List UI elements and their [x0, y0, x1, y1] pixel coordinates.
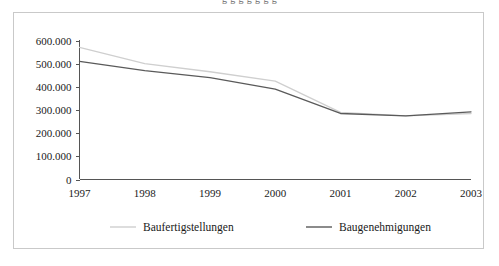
line-chart: 0100.000200.000300.000400.000500.000600.… [14, 13, 485, 250]
x-tick-label: 2000 [264, 187, 287, 199]
x-tick-label: 2001 [330, 187, 352, 199]
series-line [80, 61, 472, 115]
x-tick-label: 2002 [395, 187, 417, 199]
x-tick-label: 2003 [460, 187, 483, 199]
x-tick-label: 1998 [134, 187, 157, 199]
y-axis-tick-marks [76, 41, 80, 180]
x-axis-tick-labels: 1997199819992000200120022003 [69, 187, 483, 199]
x-tick-label: 1997 [69, 187, 92, 199]
y-axis-tick-labels: 0100.000200.000300.000400.000500.000600.… [36, 35, 72, 186]
y-tick-label: 0 [66, 174, 72, 186]
y-tick-label: 200.000 [36, 127, 72, 139]
y-tick-label: 500.000 [36, 58, 72, 70]
chart-legend: BaufertigstellungenBaugenehmigungen [110, 221, 431, 234]
y-tick-label: 400.000 [36, 81, 72, 93]
plot-area: 0100.000200.000300.000400.000500.000600.… [14, 13, 485, 250]
data-series-group [80, 47, 472, 115]
x-tick-label: 1999 [199, 187, 222, 199]
y-tick-label: 300.000 [36, 104, 72, 116]
series-line [80, 47, 472, 115]
y-tick-label: 600.000 [36, 35, 72, 47]
legend-label: Baugenehmigungen [339, 221, 431, 234]
legend-label: Baufertigstellungen [143, 221, 234, 234]
y-tick-label: 100.000 [36, 150, 72, 162]
clipped-caption-row: g g g g g g g [0, 0, 499, 5]
chart-frame: 0100.000200.000300.000400.000500.000600.… [13, 12, 484, 249]
